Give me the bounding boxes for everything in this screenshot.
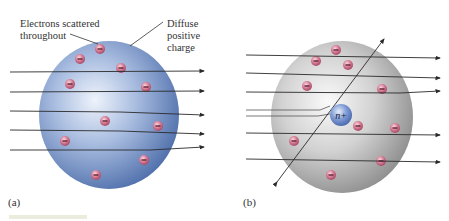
electron <box>60 136 70 146</box>
electron <box>343 60 353 70</box>
electron <box>353 121 363 131</box>
panel-b: n+ (b) <box>243 39 440 209</box>
diffuse-positive-sphere <box>39 41 179 189</box>
caption-placeholder-bar <box>9 215 87 219</box>
annotation-charge-line1: Diffuse <box>167 18 199 29</box>
annotation-electrons-line1: Electrons scattered <box>20 18 100 29</box>
panel-label-a: (a) <box>8 196 21 209</box>
electron <box>100 116 110 126</box>
electron <box>65 79 75 89</box>
pointer-line-charge <box>130 22 163 46</box>
electron <box>311 56 321 66</box>
alpha-particle-path <box>10 71 204 72</box>
rutherford-diagram: Electrons scattered throughout Diffuse p… <box>0 0 449 221</box>
electron <box>302 81 312 91</box>
electron <box>91 170 101 180</box>
electron <box>326 170 336 180</box>
electron <box>139 155 149 165</box>
electron <box>390 123 400 133</box>
electron <box>289 136 299 146</box>
electron <box>75 54 85 64</box>
electron <box>95 44 105 54</box>
electron <box>141 82 151 92</box>
annotation-electrons-line2: throughout <box>20 30 66 41</box>
annotation-charge-line3: charge <box>167 42 195 53</box>
electron <box>153 121 163 131</box>
annotation-charge-line2: positive <box>167 30 201 41</box>
panel-a: Electrons scattered throughout Diffuse p… <box>8 18 204 209</box>
panel-label-b: (b) <box>243 196 256 209</box>
pointer-line-electrons <box>70 34 98 44</box>
nucleus-label: n+ <box>335 110 347 121</box>
electron <box>331 45 341 55</box>
